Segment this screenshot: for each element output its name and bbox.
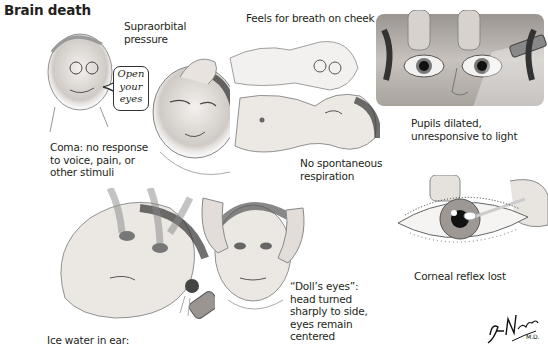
caption-line: Coma: no response bbox=[50, 141, 148, 154]
coma-label-top: Supraorbital pressure bbox=[124, 20, 186, 45]
caption-line: Pupils dilated, bbox=[411, 117, 517, 130]
svg-text:M.D.: M.D. bbox=[526, 333, 540, 340]
ice-water-illustration bbox=[40, 188, 215, 328]
caption-line: other stimuli bbox=[50, 166, 148, 179]
dolls-eyes-caption: “Doll’s eyes”: head turned sharply to si… bbox=[290, 280, 368, 343]
caption-line: centered bbox=[290, 330, 368, 343]
caption-line: sharply to side, bbox=[290, 305, 368, 318]
caption-line: No spontaneous bbox=[300, 157, 382, 170]
caption-line: respiration bbox=[300, 170, 382, 183]
figure-title: Brain death bbox=[4, 2, 91, 18]
speech-line: your bbox=[114, 81, 148, 94]
netter-signature: M.D. bbox=[482, 305, 542, 345]
label-line: pressure bbox=[124, 33, 186, 46]
caption-line: head turned bbox=[290, 293, 368, 306]
caption-line: to voice, pain, or bbox=[50, 154, 148, 167]
caption-line: unresponsive to light bbox=[411, 130, 517, 143]
coma-caption: Coma: no response to voice, pain, or oth… bbox=[50, 141, 148, 179]
ice-water-caption: Ice water in ear: bbox=[47, 334, 129, 347]
label-line: Supraorbital bbox=[124, 20, 186, 33]
pupils-illustration bbox=[372, 10, 548, 110]
caption-line: “Doll’s eyes”: bbox=[290, 280, 368, 293]
respiration-illustration bbox=[220, 28, 380, 173]
speech-bubble: Open your eyes bbox=[113, 66, 149, 111]
caption-line: eyes remain bbox=[290, 318, 368, 331]
corneal-illustration bbox=[390, 175, 548, 260]
speech-line: eyes bbox=[114, 93, 148, 106]
corneal-caption: Corneal reflex lost bbox=[414, 270, 506, 283]
pupils-caption: Pupils dilated, unresponsive to light bbox=[411, 117, 517, 142]
speech-line: Open bbox=[114, 68, 148, 81]
respiration-caption: No spontaneous respiration bbox=[300, 157, 382, 182]
respiration-label-top: Feels for breath on cheek bbox=[246, 12, 375, 25]
